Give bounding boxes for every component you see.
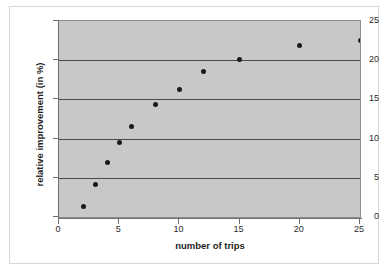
x-axis-title: number of trips <box>58 240 362 251</box>
x-tick-label-5: 5 <box>103 224 133 234</box>
data-point <box>105 160 110 165</box>
gridline-y-10 <box>59 139 360 140</box>
x-tick-label-20: 20 <box>284 224 314 234</box>
y-tick-mark-25 <box>53 20 58 21</box>
y-tick-label-5: 5 <box>344 172 388 182</box>
x-tick-label-10: 10 <box>163 224 193 234</box>
data-point <box>93 182 98 187</box>
y-tick-mark-15 <box>53 98 58 99</box>
y-tick-mark-0 <box>53 216 58 217</box>
data-point <box>201 69 206 74</box>
data-point <box>153 102 158 107</box>
y-tick-label-25: 25 <box>344 15 388 25</box>
y-tick-mark-5 <box>53 177 58 178</box>
y-tick-label-15: 15 <box>344 93 388 103</box>
data-point <box>81 204 86 209</box>
data-point <box>297 43 302 48</box>
x-tick-label-15: 15 <box>224 224 254 234</box>
y-tick-mark-20 <box>53 59 58 60</box>
data-point <box>129 124 134 129</box>
gridline-y-15 <box>59 99 360 100</box>
data-point <box>358 38 362 43</box>
x-tick-label-25: 25 <box>344 224 374 234</box>
y-tick-mark-10 <box>53 138 58 139</box>
x-axis-line <box>58 218 362 219</box>
data-point <box>177 87 182 92</box>
y-tick-label-20: 20 <box>344 54 388 64</box>
x-tick-label-0: 0 <box>43 224 73 234</box>
y-axis-line <box>58 20 59 219</box>
data-point <box>117 140 122 145</box>
plot-area <box>58 20 361 218</box>
y-axis-title: relative improvement (in %) <box>34 25 45 225</box>
y-tick-label-10: 10 <box>344 133 388 143</box>
y-tick-label-0: 0 <box>344 211 388 221</box>
gridline-y-5 <box>59 178 360 179</box>
data-point <box>237 57 242 62</box>
scatter-chart-figure: 0510152025 0510152025 number of trips re… <box>0 0 388 275</box>
gridline-y-20 <box>59 60 360 61</box>
